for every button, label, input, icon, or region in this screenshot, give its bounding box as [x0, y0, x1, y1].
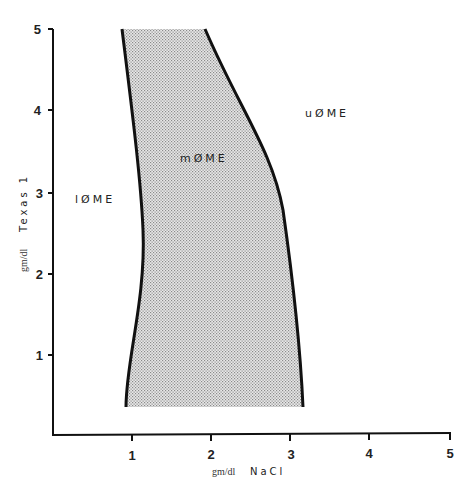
- y-tick-label-4: 4: [34, 103, 42, 118]
- y-tick-label-3: 3: [36, 186, 43, 201]
- y-axis-title: gm/dl Texas 1: [18, 174, 29, 272]
- mome-shaded-region: [122, 29, 303, 407]
- svg-text:NaCl: NaCl: [250, 466, 285, 477]
- x-axis-title: gm/dl NaCl: [212, 466, 285, 477]
- svg-text:gm/dl: gm/dl: [212, 466, 236, 477]
- region-label-lome: lØME: [75, 193, 115, 206]
- x-tick-label-4: 4: [365, 446, 373, 461]
- region-label-mome: mØME: [180, 152, 228, 165]
- region-label-uome: uØME: [305, 107, 349, 120]
- x-tick-label-5: 5: [446, 446, 453, 461]
- svg-text:gm/dl: gm/dl: [18, 248, 29, 272]
- y-tick-label-2: 2: [36, 267, 43, 282]
- phase-diagram-chart: 5 4 3 2 1 1 2 3 4 5 gm/dl NaCl gm/dl Tex…: [0, 0, 473, 492]
- x-tick-label-1: 1: [128, 448, 135, 463]
- svg-text:Texas 1: Texas 1: [18, 174, 29, 233]
- y-tick-label-5: 5: [34, 22, 41, 37]
- x-tick-label-3: 3: [287, 447, 294, 462]
- x-tick-label-2: 2: [207, 447, 214, 462]
- x-axis: [53, 433, 451, 435]
- y-tick-label-1: 1: [36, 348, 43, 363]
